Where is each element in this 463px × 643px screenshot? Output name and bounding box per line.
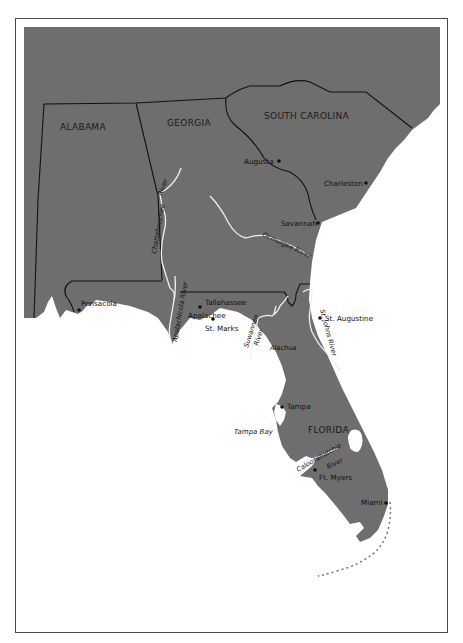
- water-label-tampa-bay: Tampa Bay: [234, 428, 274, 436]
- southeast-map: ALABAMA GEORGIA SOUTH CAROLINA FLORIDA A…: [0, 0, 463, 643]
- tampa-dot: [280, 405, 284, 409]
- city-label-st-augustine: St. Augustine: [325, 314, 374, 323]
- pensacola-dot: [77, 308, 81, 312]
- city-label-tallahassee: Tallahassee: [204, 298, 247, 307]
- savannah-dot: [316, 221, 320, 225]
- ft-myers-dot: [313, 468, 317, 472]
- charleston-dot: [364, 181, 368, 185]
- city-label-augusta: Augusta: [244, 157, 274, 166]
- state-label-georgia: GEORGIA: [167, 118, 211, 128]
- city-label-charleston: Charleston: [324, 179, 363, 188]
- tallahassee-dot: [198, 305, 202, 309]
- city-label-st-marks: St. Marks: [205, 324, 239, 333]
- city-label-miami: Miami: [361, 498, 383, 507]
- augusta-dot: [277, 159, 281, 163]
- state-label-florida: FLORIDA: [308, 425, 349, 435]
- city-label-pensacola: Pensacola: [81, 299, 117, 308]
- state-label-south-carolina: SOUTH CAROLINA: [264, 111, 350, 121]
- land-mass: [24, 27, 440, 542]
- miami-dot: [384, 501, 388, 505]
- city-label-savannah: Savannah: [281, 219, 317, 228]
- city-label-tampa: Tampa: [286, 402, 311, 411]
- state-label-alabama: ALABAMA: [60, 122, 106, 132]
- city-label-apalachee: Apalachee: [188, 311, 226, 320]
- region-label-alachua: Alachua: [269, 344, 296, 352]
- city-label-ft-myers: Ft. Myers: [319, 473, 352, 482]
